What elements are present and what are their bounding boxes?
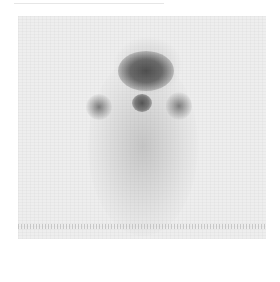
scan-edge-artifact xyxy=(18,224,266,229)
scintigraphy-image xyxy=(18,16,266,239)
top-divider xyxy=(14,3,164,4)
image-noise xyxy=(18,16,266,239)
